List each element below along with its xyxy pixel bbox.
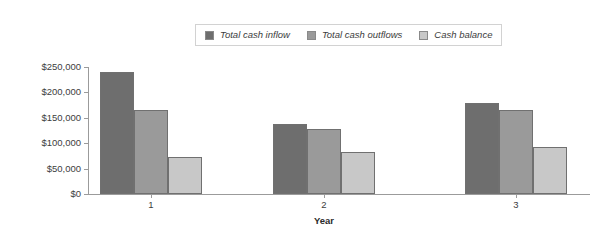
x-tick-mark [151,194,152,198]
legend-label-total-cash-inflow: Total cash inflow [220,30,290,40]
y-tick-label: $100,000 [41,138,81,148]
chart-legend: Total cash inflow Total cash outflows Ca… [195,24,502,46]
y-tick-label: $250,000 [41,62,81,72]
y-tick-mark [84,194,88,195]
y-tick-label: $0 [70,189,81,199]
y-tick-label: $200,000 [41,88,81,98]
bar [168,157,202,194]
x-tick-label: 3 [513,200,518,210]
x-axis-title: Year [314,216,334,226]
bar [341,152,375,194]
y-tick-mark [84,118,88,119]
x-tick-label: 2 [321,200,326,210]
y-tick-label: $150,000 [41,113,81,123]
bar-chart: Total cash inflow Total cash outflows Ca… [0,0,611,237]
legend-swatch-cash-balance [419,31,428,40]
bar [273,124,307,194]
x-tick-label: 1 [148,200,153,210]
x-tick-mark [516,194,517,198]
y-tick-mark [84,169,88,170]
bar [100,72,134,194]
x-tick-mark [324,194,325,198]
y-tick-mark [84,92,88,93]
bar [307,129,341,194]
legend-swatch-total-cash-outflows [307,31,316,40]
legend-swatch-total-cash-inflow [205,31,214,40]
y-tick-mark [84,67,88,68]
plot-area: $0$50,000$100,000$150,000$200,000$250,00… [88,67,590,194]
bar [134,110,168,194]
legend-label-cash-balance: Cash balance [434,30,492,40]
bar [533,147,567,194]
legend-label-total-cash-outflows: Total cash outflows [322,30,402,40]
legend-item-cash-balance: Cash balance [419,30,492,40]
x-axis-line [88,194,590,195]
bar [499,110,533,194]
y-tick-mark [84,143,88,144]
legend-item-total-cash-outflows: Total cash outflows [307,30,402,40]
y-tick-label: $50,000 [47,164,81,174]
legend-item-total-cash-inflow: Total cash inflow [205,30,290,40]
bar [465,103,499,194]
y-axis-line [88,67,89,194]
